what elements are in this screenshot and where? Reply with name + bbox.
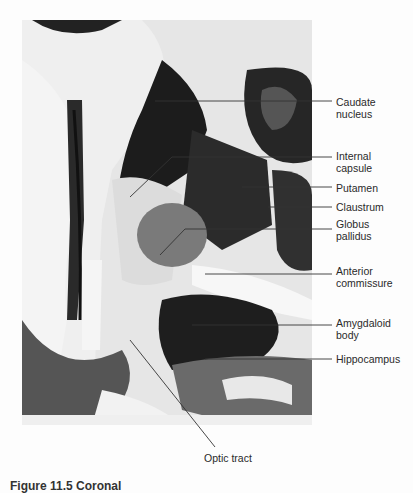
label-line: Hippocampus [336, 353, 400, 365]
label-line: Amygdaloid [336, 317, 391, 329]
label-putamen: Putamen [336, 182, 378, 194]
label-anterior-commissure: Anterior commissure [336, 265, 393, 289]
label-line: commissure [336, 277, 393, 289]
label-optic-tract: Optic tract [204, 452, 252, 464]
label-line: Globus [336, 218, 372, 230]
figure-caption: Figure 11.5 Coronal [10, 479, 121, 493]
label-globus-pallidus: Globus pallidus [336, 218, 372, 242]
label-line: capsule [336, 162, 372, 174]
label-internal-capsule: Internal capsule [336, 150, 372, 174]
label-line: Anterior [336, 265, 393, 277]
label-line: Putamen [336, 182, 378, 194]
label-line: Claustrum [336, 201, 384, 213]
label-amygdaloid-body: Amygdaloid body [336, 317, 391, 341]
label-caudate-nucleus: Caudate nucleus [336, 96, 376, 120]
label-hippocampus: Hippocampus [336, 353, 400, 365]
label-line: body [336, 329, 391, 341]
label-line: pallidus [336, 230, 372, 242]
label-line: Internal [336, 150, 372, 162]
label-line: nucleus [336, 108, 376, 120]
label-line: Caudate [336, 96, 376, 108]
label-claustrum: Claustrum [336, 201, 384, 213]
